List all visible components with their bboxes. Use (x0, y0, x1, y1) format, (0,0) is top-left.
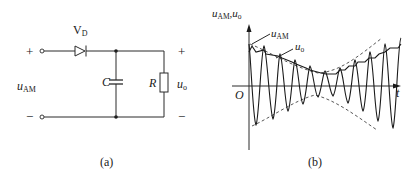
caption-b: (b) (308, 155, 322, 169)
resistor-icon (160, 51, 168, 117)
input-terminal-plus (40, 49, 44, 53)
y-axis-arrow-icon (247, 24, 252, 32)
callout-line-uam (252, 34, 270, 44)
input-terminal-minus (40, 115, 44, 119)
input-voltage-label: uAM (17, 79, 36, 94)
capacitor-label: C (102, 75, 111, 89)
resistor-label: R (148, 76, 157, 90)
output-minus-label: − (178, 109, 185, 124)
output-signal-curve (249, 44, 401, 74)
lower-envelope (252, 95, 377, 130)
origin-label: O (235, 88, 244, 102)
figure-canvas: + − uAM VD C R + − uo (a) (0, 0, 417, 181)
capacitor-icon (109, 51, 123, 117)
waveform-chart: uAM,uo uAM uo O t (b) (212, 7, 401, 169)
upper-envelope (250, 38, 382, 73)
callout-label-uo: uo (295, 40, 305, 54)
callout-line-uo (276, 49, 293, 58)
caption-a: (a) (100, 155, 113, 169)
output-plus-label: + (178, 44, 185, 59)
diode-icon (75, 46, 86, 57)
input-minus-label: − (26, 109, 33, 124)
x-axis-label: t (396, 86, 400, 100)
am-signal-curve (249, 38, 401, 128)
callout-label-uam: uAM (271, 27, 289, 41)
circuit-diagram: + − uAM VD C R + − uo (a) (17, 23, 187, 169)
input-plus-label: + (26, 44, 33, 59)
output-voltage-label: uo (177, 77, 187, 92)
diode-label: VD (73, 23, 88, 38)
y-axis-label: uAM,uo (212, 7, 242, 21)
